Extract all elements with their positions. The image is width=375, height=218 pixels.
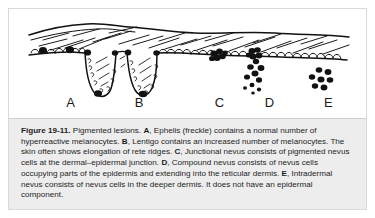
nevus-cells-panel-d [243, 47, 264, 94]
figure-caption-box: Figure 19-11. Pigmented lesions. A, Ephe… [9, 118, 366, 209]
rete-ridge-hatching [96, 56, 151, 88]
rete-ridge-1 [85, 53, 116, 96]
nevus-cells-panel-e [309, 67, 334, 90]
basal-cell-layer-rete [88, 59, 158, 95]
junction-line-a2 [71, 52, 85, 53]
skin-cross-section-drawing [9, 9, 366, 118]
melanocytes-panel-b [84, 49, 160, 97]
junction-line-a [29, 52, 71, 55]
figure-caption-text: Figure 19-11. Pigmented lesions. A, Ephe… [21, 126, 354, 201]
figure-page: A B C D E Figure 19-11. Pigmented lesion… [0, 0, 375, 218]
skin-pigmented-lesions-illustration: A B C D E [9, 9, 366, 118]
figure-frame: A B C D E Figure 19-11. Pigmented lesion… [8, 8, 367, 210]
